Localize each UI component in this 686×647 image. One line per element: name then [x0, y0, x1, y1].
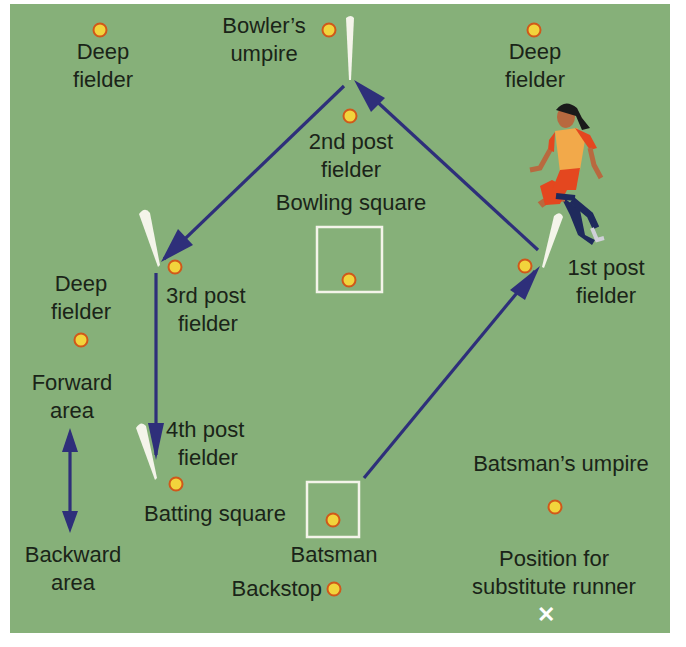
- label-batting-square: Batting square: [144, 500, 286, 528]
- fielder-dot-fourth-post: [169, 477, 184, 492]
- path-batting-to-first: [364, 271, 535, 478]
- fielder-dot-batsmans-umpire: [548, 500, 563, 515]
- fielder-dot-bowler: [342, 273, 357, 288]
- label-substitute-runner: Position for substitute runner: [472, 545, 636, 601]
- label-deep-fielder-top-left: Deep fielder: [73, 38, 133, 94]
- label-fourth-post-fielder: 4th post fielder: [166, 416, 244, 472]
- label-bowling-square: Bowling square: [276, 189, 426, 217]
- arrowhead-second: [354, 80, 385, 112]
- fielder-dot-third-post: [168, 260, 183, 275]
- label-third-post-fielder: 3rd post fielder: [166, 282, 246, 338]
- backward-arrowhead: [62, 511, 78, 533]
- first-post-icon: [542, 213, 563, 268]
- fielder-dot-first-post: [518, 259, 533, 274]
- fielder-dot-deep-top-right: [527, 23, 542, 38]
- third-post-icon: [139, 210, 160, 267]
- label-batsman: Batsman: [291, 541, 378, 569]
- batting-square-outline: [307, 482, 359, 537]
- fielder-dot-second-post: [343, 109, 358, 124]
- label-backstop: Backstop: [232, 575, 323, 603]
- running-paths: [62, 80, 540, 533]
- posts: [136, 16, 563, 480]
- fielder-dot-backstop: [327, 582, 342, 597]
- label-first-post-fielder: 1st post fielder: [567, 254, 644, 310]
- label-deep-fielder-top-right: Deep fielder: [505, 38, 565, 94]
- forward-arrowhead: [62, 428, 78, 452]
- label-backward-area: Backward area: [25, 541, 122, 597]
- label-second-post-fielder: 2nd post fielder: [309, 128, 393, 184]
- label-deep-fielder-left: Deep fielder: [51, 270, 111, 326]
- second-post-icon: [346, 16, 354, 80]
- fielder-dot-deep-top-left: [93, 23, 108, 38]
- label-batsmans-umpire: Batsman’s umpire: [473, 450, 649, 478]
- fielder-dot-deep-left: [74, 333, 89, 348]
- running-player-icon: [530, 103, 604, 245]
- label-bowlers-umpire: Bowler’s umpire: [222, 12, 306, 68]
- fielder-dot-bowlers-umpire: [322, 23, 337, 38]
- label-forward-area: Forward area: [32, 369, 113, 425]
- substitute-runner-x-icon: ✕: [537, 604, 555, 626]
- fielder-dot-batsman: [326, 513, 341, 528]
